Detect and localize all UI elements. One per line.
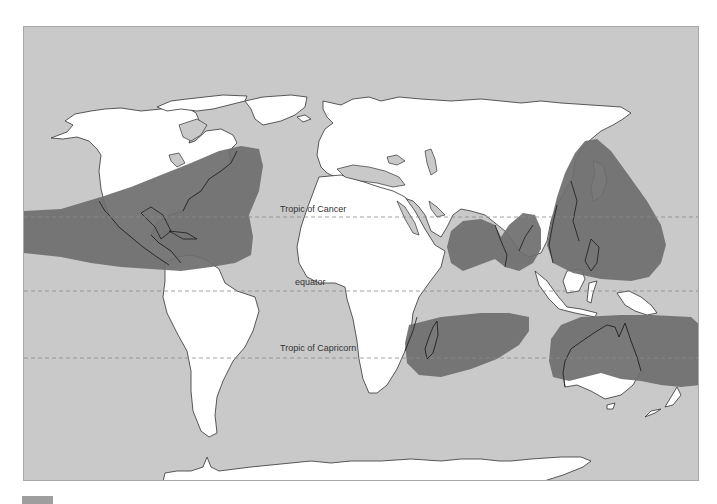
new-zealand (645, 387, 681, 417)
equator-label: equator (295, 277, 326, 287)
arctic-islands (157, 95, 247, 111)
tropic-of-cancer-label: Tropic of Cancer (280, 204, 346, 214)
greenland (245, 95, 307, 125)
new-guinea (617, 291, 657, 315)
map-canvas (24, 27, 699, 481)
storm-zone-south-indian (405, 313, 529, 377)
antarctica (163, 457, 591, 481)
world-map: Tropic of Cancer equator Tropic of Capri… (23, 26, 699, 481)
sulawesi (587, 281, 597, 303)
tropic-of-capricorn-label: Tropic of Capricorn (280, 343, 356, 353)
tasmania (607, 403, 615, 409)
legend-swatch (22, 496, 53, 504)
south-america (163, 255, 259, 437)
iceland (297, 115, 311, 122)
